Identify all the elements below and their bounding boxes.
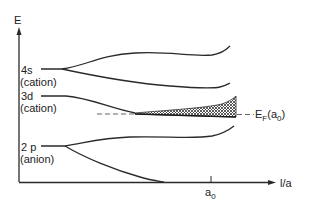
x-axis-label: l/a — [280, 177, 292, 189]
level-3d-label: 3d — [21, 90, 33, 102]
level-2p-sublabel: (anion) — [20, 153, 54, 165]
level-3d-sublabel: (cation) — [20, 102, 57, 114]
level-4s-curves — [41, 46, 230, 88]
y-axis-arrow-icon — [17, 27, 22, 35]
fermi-level-label: EF(a0) — [255, 108, 285, 125]
fermi-paren-open: (a — [267, 108, 277, 120]
fermi-paren-close: ) — [281, 108, 285, 120]
level-4s-label: 4s — [21, 64, 33, 76]
level-4s-sublabel: (cation) — [20, 76, 57, 88]
level-2p-curves — [41, 126, 234, 182]
level-3d-band — [41, 96, 236, 117]
a0-tick-label: a0 — [205, 186, 216, 203]
y-axis-label: E — [14, 14, 21, 26]
x-axis-arrow-icon — [268, 180, 276, 185]
x-axis — [19, 176, 276, 185]
level-2p-label: 2 p — [21, 141, 36, 153]
a0-sub: 0 — [211, 192, 215, 201]
